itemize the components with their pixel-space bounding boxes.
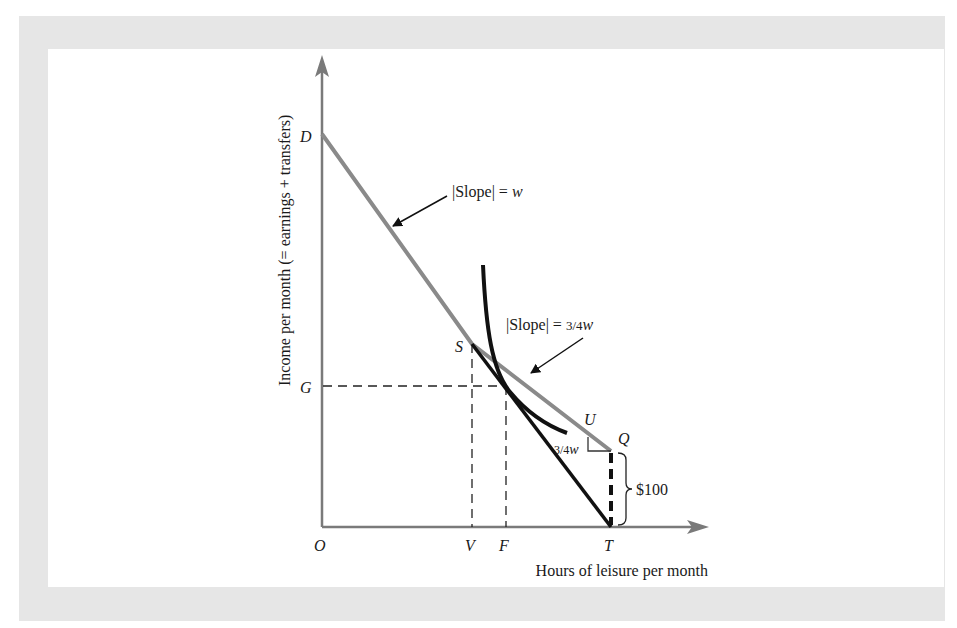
y-axis xyxy=(315,55,329,527)
point-label-q: Q xyxy=(618,430,630,447)
transfer-amount-label: $100 xyxy=(636,481,668,498)
point-label-f: F xyxy=(498,537,509,554)
point-label-v: V xyxy=(465,537,477,554)
budget-line-dsq xyxy=(322,134,611,451)
point-label-u: U xyxy=(584,411,597,428)
guide-lines xyxy=(323,344,506,527)
slope-34w-label: |Slope| = 3/4w xyxy=(506,316,594,334)
point-label-s: S xyxy=(455,338,463,355)
slope-w-label: |Slope| = w xyxy=(452,183,523,201)
budget-constraint-diagram: D G S O V F T U Q |Slope| = w |Slope| = … xyxy=(0,0,957,628)
x-axis xyxy=(322,520,709,534)
point-label-d: D xyxy=(299,128,312,145)
point-label-t: T xyxy=(604,537,614,554)
point-label-g: G xyxy=(300,379,312,396)
slope-34w-arrow-icon xyxy=(531,338,583,373)
slope-w-arrow-icon xyxy=(393,196,447,226)
triangle-slope-label: 3/4w xyxy=(554,442,579,457)
point-label-o: O xyxy=(314,537,326,554)
x-axis-label: Hours of leisure per month xyxy=(536,562,708,580)
y-axis-label: Income per month (= earnings + transfers… xyxy=(276,115,294,386)
transfer-brace xyxy=(618,453,632,525)
